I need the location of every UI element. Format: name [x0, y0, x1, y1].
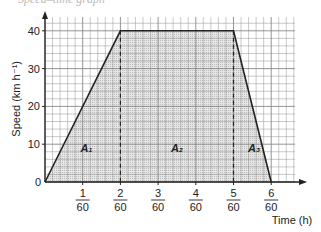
- x-tick-denominator: 60: [152, 201, 164, 213]
- x-tick-denominator: 60: [77, 201, 89, 213]
- y-tick-label: 0: [35, 176, 41, 188]
- y-axis-label: Speed (km h⁻¹): [10, 61, 22, 137]
- x-tick-denominator: 60: [190, 201, 202, 213]
- x-axis-label: Time (h): [272, 214, 313, 226]
- region-label: A₃: [247, 142, 260, 154]
- speed-time-chart: 010203040160260360460560660Time (h)Speed…: [0, 0, 321, 232]
- x-axis-arrow-icon: [299, 179, 307, 185]
- x-tick-numerator: 3: [155, 187, 161, 199]
- x-tick-numerator: 2: [117, 187, 123, 199]
- x-tick-numerator: 6: [268, 187, 274, 199]
- y-tick-label: 40: [28, 25, 40, 37]
- x-tick-denominator: 60: [114, 201, 126, 213]
- y-axis-arrow-icon: [42, 11, 48, 19]
- y-tick-label: 20: [28, 100, 40, 112]
- x-tick-denominator: 60: [227, 201, 239, 213]
- x-tick-denominator: 60: [265, 201, 277, 213]
- x-tick-numerator: 5: [230, 187, 236, 199]
- x-tick-numerator: 4: [193, 187, 199, 199]
- y-tick-label: 30: [28, 63, 40, 75]
- y-tick-label: 10: [28, 138, 40, 150]
- region-label: A₁: [80, 142, 93, 154]
- region-label: A₂: [170, 142, 183, 154]
- x-tick-numerator: 1: [80, 187, 86, 199]
